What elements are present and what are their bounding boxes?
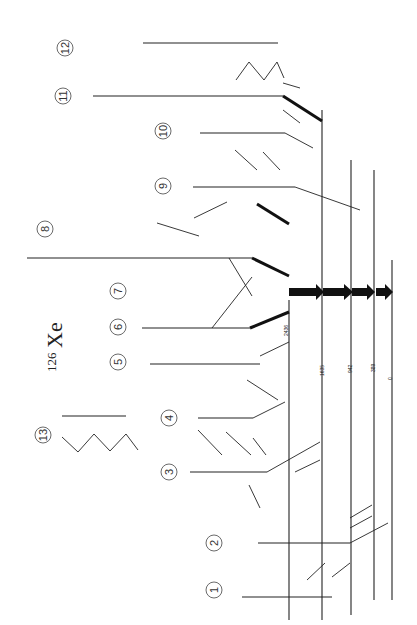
band-5	[150, 342, 289, 400]
svg-text:2436: 2436	[283, 325, 289, 336]
svg-text:8: 8	[39, 226, 51, 232]
band-3	[190, 442, 320, 508]
svg-text:10: 10	[157, 125, 169, 137]
svg-text:13: 13	[37, 429, 49, 441]
svg-text:389: 389	[370, 363, 376, 372]
svg-text:12: 12	[59, 42, 71, 54]
band-13	[62, 416, 138, 452]
level-scheme-figure: 126 Xe 1 2 3 4 5 6 7 8 9 10 11 12 13	[0, 0, 417, 625]
svg-text:1: 1	[208, 587, 220, 593]
band-4	[198, 402, 285, 455]
band-12	[143, 43, 300, 88]
band-label-2: 2	[206, 535, 222, 551]
band-label-9: 9	[155, 178, 171, 194]
svg-text:126: 126	[44, 352, 59, 372]
nucleus-title: 126 Xe	[42, 322, 67, 372]
band-label-1: 1	[206, 582, 222, 598]
svg-text:5: 5	[112, 359, 124, 365]
band-label-12: 12	[57, 40, 73, 56]
band-10	[200, 133, 313, 170]
band-label-13: 13	[35, 427, 51, 443]
svg-text:3: 3	[163, 469, 175, 475]
svg-text:2: 2	[208, 540, 220, 546]
band-6	[142, 277, 289, 328]
band-2	[258, 505, 388, 543]
band-1	[242, 563, 350, 597]
svg-text:Xe: Xe	[42, 322, 67, 348]
level-scheme-svg: 126 Xe 1 2 3 4 5 6 7 8 9 10 11 12 13	[0, 0, 417, 625]
band-label-7: 7	[110, 283, 126, 299]
svg-text:942: 942	[347, 364, 353, 373]
svg-text:4: 4	[163, 415, 175, 421]
band-label-4: 4	[161, 410, 177, 426]
band-label-5: 5	[110, 354, 126, 370]
band-label-6: 6	[110, 319, 126, 335]
band-7	[27, 258, 289, 296]
band-label-8: 8	[37, 221, 53, 237]
energy-labels: 2436 1635 942 389 0	[283, 325, 393, 380]
svg-text:9: 9	[157, 183, 169, 189]
svg-text:6: 6	[112, 324, 124, 330]
band-8	[157, 202, 289, 236]
svg-text:11: 11	[57, 90, 69, 101]
band-label-3: 3	[161, 464, 177, 480]
band-label-11: 11	[55, 88, 71, 104]
svg-text:0: 0	[387, 377, 393, 380]
band-11	[93, 96, 322, 123]
band-label-10: 10	[155, 123, 171, 139]
svg-text:1635: 1635	[319, 365, 325, 376]
svg-text:7: 7	[112, 288, 124, 294]
